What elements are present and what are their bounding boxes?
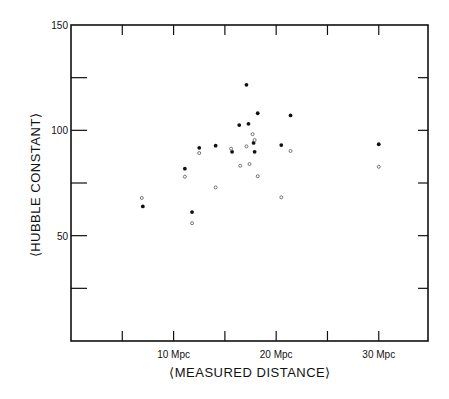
open-data-point: [256, 175, 259, 178]
y-tick-label: 50: [57, 231, 69, 242]
axis-ticks: [71, 25, 428, 341]
filled-data-point: [247, 122, 251, 126]
open-data-point: [191, 222, 194, 225]
x-tick-label: 30 Mpc: [362, 349, 395, 360]
open-data-point: [239, 164, 242, 167]
filled-data-point: [197, 146, 201, 150]
x-tick-label: 20 Mpc: [260, 349, 293, 360]
filled-data-point: [377, 142, 381, 146]
filled-data-point: [141, 204, 145, 208]
data-points: [140, 83, 380, 225]
filled-data-point: [183, 167, 187, 171]
open-data-point: [253, 139, 256, 142]
open-data-point: [214, 186, 217, 189]
open-data-point: [280, 196, 283, 199]
open-data-point: [183, 175, 186, 178]
plot-border: [71, 25, 428, 341]
axis-tick-labels: 10 Mpc20 Mpc30 Mpc50100150: [51, 20, 395, 360]
filled-data-point: [190, 210, 194, 214]
y-tick-label: 100: [51, 125, 68, 136]
x-tick-label: 10 Mpc: [157, 349, 190, 360]
filled-data-point: [253, 150, 257, 154]
filled-data-point: [214, 144, 218, 148]
y-tick-label: 150: [51, 20, 68, 31]
open-data-point: [248, 163, 251, 166]
y-axis-title: ⟨HUBBLE CONSTANT⟩: [28, 113, 43, 258]
hubble-scatter-chart: 10 Mpc20 Mpc30 Mpc50100150 ⟨MEASURED DIS…: [0, 0, 449, 399]
plot-frame: [71, 25, 428, 341]
filled-data-point: [289, 113, 293, 117]
open-data-point: [198, 152, 201, 155]
open-data-point: [230, 147, 233, 150]
x-axis-title: ⟨MEASURED DISTANCE⟩: [169, 365, 331, 380]
filled-data-point: [245, 83, 249, 87]
filled-data-point: [237, 123, 241, 127]
open-data-point: [245, 145, 248, 148]
open-data-point: [251, 133, 254, 136]
filled-data-point: [256, 111, 260, 115]
open-data-point: [289, 149, 292, 152]
open-data-point: [377, 165, 380, 168]
open-data-point: [140, 196, 143, 199]
filled-data-point: [279, 143, 283, 147]
